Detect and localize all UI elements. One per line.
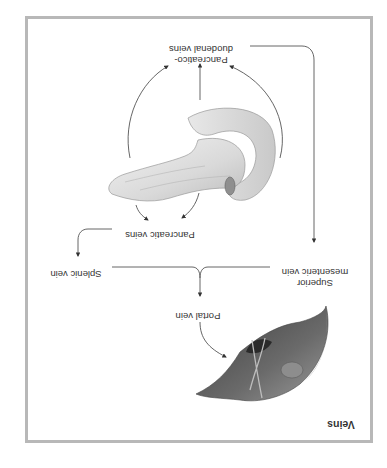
figure-title: Veins — [327, 419, 355, 431]
veins-diagram: Pancreatico- duodenal veins Pancreatic v… — [0, 0, 387, 468]
label-pancreaticoduodenal-line1: Pancreatico- — [174, 55, 227, 66]
label-splenic-vein: Splenic vein — [50, 269, 101, 280]
label-pancreaticoduodenal-line2: duodenal veins — [169, 44, 233, 55]
pancreas-illustration — [109, 108, 275, 201]
label-superior-mesenteric-line2: mesenteric vein — [282, 267, 349, 278]
label-superior-mesenteric-line1: Superior — [297, 278, 333, 289]
label-pancreatic-veins: Pancreatic veins — [125, 230, 195, 241]
label-portal-vein: Portal vein — [176, 311, 221, 322]
